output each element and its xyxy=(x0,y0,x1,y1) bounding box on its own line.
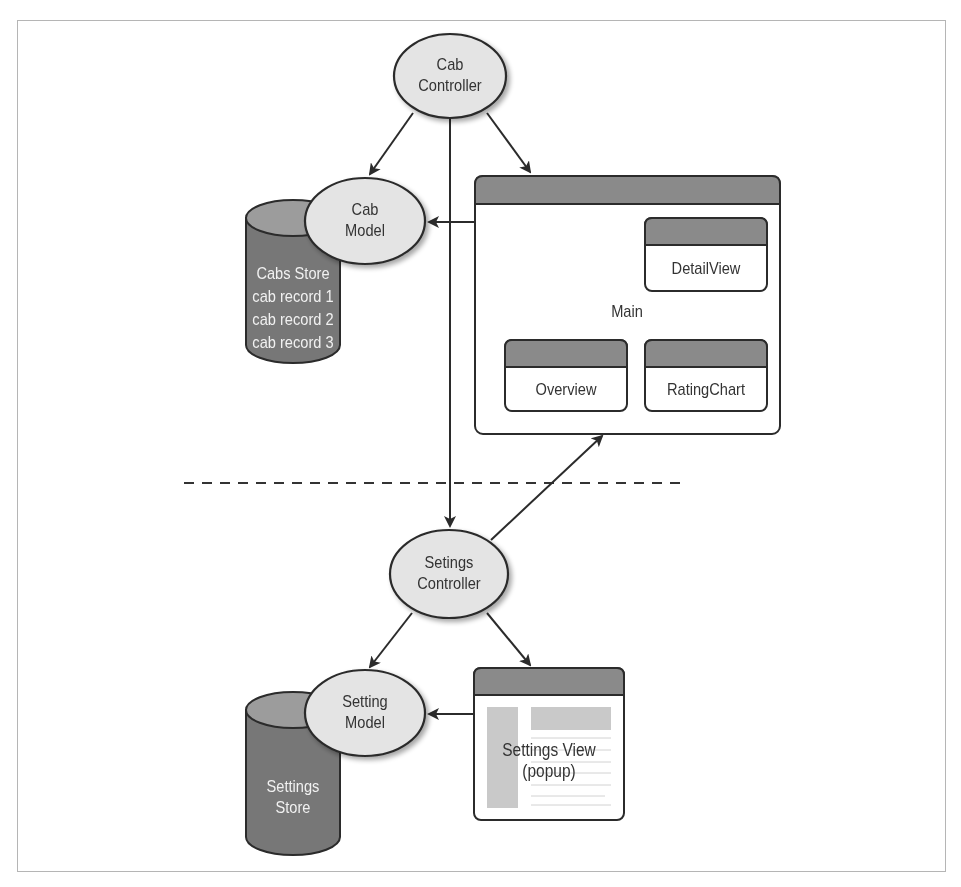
edge-setingscontroller-main xyxy=(491,436,602,540)
overview-label: Overview xyxy=(514,379,619,400)
cab-record-1: cab record 1 xyxy=(246,285,341,308)
popup-header-placeholder xyxy=(531,707,611,730)
cab-record-3: cab record 3 xyxy=(246,331,341,354)
settings-view-label: Settings View (popup) xyxy=(485,740,614,782)
setting-model-line1: Setting xyxy=(322,691,408,712)
ratingchart-label: RatingChart xyxy=(654,379,759,400)
setings-controller-line1: Setings xyxy=(406,552,492,573)
edge-setingscontroller-settingsview xyxy=(487,613,530,665)
setings-controller-line2: Controller xyxy=(406,573,492,594)
architecture-diagram xyxy=(0,0,961,887)
cab-controller-line2: Controller xyxy=(407,75,493,96)
edge-cabcontroller-main xyxy=(487,113,530,172)
settings-store-line1: Settings xyxy=(250,776,336,797)
detailview-window xyxy=(645,218,767,291)
settings-view-line2: (popup) xyxy=(485,761,614,782)
settings-store-line2: Store xyxy=(250,797,336,818)
setting-model-label: Setting Model xyxy=(322,691,408,733)
cab-controller-line1: Cab xyxy=(407,54,493,75)
detailview-label: DetailView xyxy=(654,258,759,279)
edge-setingscontroller-settingmodel xyxy=(370,613,412,667)
cab-model-line1: Cab xyxy=(322,199,408,220)
cab-model-line2: Model xyxy=(322,220,408,241)
main-label: Main xyxy=(584,301,670,322)
cabs-store-title: Cabs Store xyxy=(246,262,341,285)
setting-model-line2: Model xyxy=(322,712,408,733)
cab-model-label: Cab Model xyxy=(322,199,408,241)
edge-cabcontroller-cabmodel xyxy=(370,113,413,174)
cab-controller-label: Cab Controller xyxy=(407,54,493,96)
cabs-store-label: Cabs Store cab record 1 cab record 2 cab… xyxy=(246,262,341,354)
overview-window xyxy=(505,340,627,411)
settings-store-label: Settings Store xyxy=(250,776,336,818)
ratingchart-window xyxy=(645,340,767,411)
settings-view-line1: Settings View xyxy=(485,740,614,761)
cab-record-2: cab record 2 xyxy=(246,308,341,331)
setings-controller-label: Setings Controller xyxy=(406,552,492,594)
